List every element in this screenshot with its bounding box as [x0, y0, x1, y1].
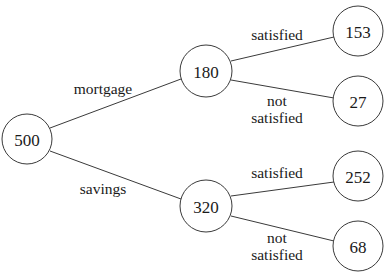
edge-label-savings: savings	[80, 180, 127, 197]
edge-label-savings-not: not	[267, 229, 288, 246]
node-savings-value: 320	[193, 198, 219, 217]
node-root-value: 500	[14, 131, 40, 150]
node-savings-satisfied: 252	[333, 151, 383, 201]
edge-label-savings-satisfied: satisfied	[251, 164, 303, 181]
edge-label-mortgage-satisfied: satisfied	[251, 26, 303, 43]
edge-label-mortgage-not-satisfied: satisfied	[251, 109, 303, 126]
node-savings: 320	[180, 180, 232, 232]
node-root: 500	[2, 114, 52, 164]
node-mortgage-satisfied-value: 153	[345, 23, 371, 42]
node-savings-not-satisfied-value: 68	[350, 238, 367, 257]
edge-label-savings-not-satisfied: satisfied	[251, 246, 303, 263]
edge-label-mortgage-not: not	[267, 92, 288, 109]
node-mortgage: 180	[180, 45, 232, 97]
node-mortgage-not-satisfied-value: 27	[350, 93, 368, 112]
node-mortgage-value: 180	[193, 63, 219, 82]
node-mortgage-not-satisfied: 27	[333, 76, 383, 126]
node-mortgage-satisfied: 153	[333, 6, 383, 56]
node-savings-not-satisfied: 68	[333, 221, 383, 271]
edge-savings-to-satisfied	[231, 182, 334, 196]
edge-label-mortgage: mortgage	[74, 80, 133, 97]
probability-tree-diagram: mortgage savings satisfied not satisfied…	[0, 0, 390, 276]
node-savings-satisfied-value: 252	[345, 168, 371, 187]
